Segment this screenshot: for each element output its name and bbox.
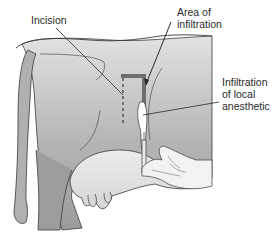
label-area-of-infiltration: Area of infiltration: [177, 6, 222, 30]
label-area-line1: Area of: [177, 6, 222, 18]
label-infiltration-line1: Infiltration: [222, 76, 270, 88]
label-infiltration-of-local-anesthetic: Infiltration of local anesthetic: [222, 76, 270, 112]
label-area-line2: infiltration: [177, 18, 222, 30]
cow-illustration: [0, 0, 277, 234]
label-infiltration-line3: anesthetic: [222, 100, 270, 112]
figure: Incision Area of infiltration Infiltrati…: [0, 0, 277, 234]
label-incision-text: Incision: [31, 14, 67, 26]
label-infiltration-line2: of local: [222, 88, 270, 100]
label-incision: Incision: [31, 14, 67, 26]
